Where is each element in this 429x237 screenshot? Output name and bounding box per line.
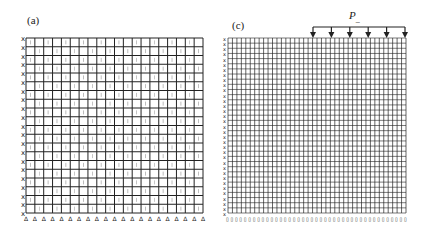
svg-text:▯: ▯ [288, 216, 291, 222]
svg-text:▯: ▯ [311, 216, 314, 222]
svg-text:Δ: Δ [166, 215, 171, 222]
svg-text:▯: ▯ [386, 216, 389, 222]
svg-text:▯: ▯ [279, 216, 282, 222]
svg-text:▯: ▯ [315, 216, 318, 222]
svg-text:Δ: Δ [183, 215, 188, 222]
svg-text:▯: ▯ [253, 216, 256, 222]
svg-text:Δ: Δ [148, 215, 153, 222]
svg-text:▯: ▯ [235, 216, 238, 222]
svg-text:x: x [21, 175, 25, 183]
svg-text:▯: ▯ [293, 216, 296, 222]
mesh-figure: xxxxxxxxxxxxxxxxxxxxxΔΔΔΔΔΔΔΔΔΔΔΔΔΔΔΔΔΔΔ… [0, 0, 429, 237]
svg-text:Δ: Δ [157, 215, 162, 222]
svg-text:Δ: Δ [33, 215, 38, 222]
svg-text:Δ: Δ [68, 215, 73, 222]
svg-text:x: x [21, 184, 25, 192]
svg-text:x: x [21, 44, 25, 52]
svg-text:▯: ▯ [306, 216, 309, 222]
svg-text:Δ: Δ [24, 215, 29, 222]
svg-text:▯: ▯ [373, 216, 376, 222]
svg-text:▯: ▯ [333, 216, 336, 222]
svg-text:▯: ▯ [244, 216, 247, 222]
svg-text:x: x [21, 131, 25, 139]
svg-text:▯: ▯ [266, 216, 269, 222]
svg-text:▯: ▯ [377, 216, 380, 222]
svg-text:Δ: Δ [95, 215, 100, 222]
svg-text:▯: ▯ [230, 216, 233, 222]
svg-text:x: x [21, 140, 25, 148]
svg-text:▯: ▯ [404, 216, 407, 222]
svg-text:▯: ▯ [368, 216, 371, 222]
svg-text:Δ: Δ [139, 215, 144, 222]
svg-text:x: x [21, 193, 25, 201]
svg-text:x: x [21, 61, 25, 69]
svg-text:▯: ▯ [262, 216, 265, 222]
svg-text:x: x [21, 35, 25, 43]
svg-text:▯: ▯ [257, 216, 260, 222]
svg-text:x: x [21, 79, 25, 87]
svg-text:x: x [21, 123, 25, 131]
svg-text:x: x [21, 149, 25, 157]
svg-text:x: x [21, 96, 25, 104]
svg-text:Δ: Δ [77, 215, 82, 222]
svg-text:x: x [21, 158, 25, 166]
svg-text:▯: ▯ [226, 216, 229, 222]
svg-text:x: x [21, 53, 25, 61]
svg-text:▯: ▯ [382, 216, 385, 222]
svg-text:x: x [21, 105, 25, 113]
svg-text:▯: ▯ [248, 216, 251, 222]
svg-text:▯: ▯ [324, 216, 327, 222]
svg-text:Δ: Δ [201, 215, 206, 222]
svg-text:▯: ▯ [239, 216, 242, 222]
svg-text:Δ: Δ [192, 215, 197, 222]
svg-text:▯: ▯ [302, 216, 305, 222]
svg-text:Δ: Δ [86, 215, 91, 222]
svg-text:▯: ▯ [364, 216, 367, 222]
svg-text:Δ: Δ [130, 215, 135, 222]
svg-text:Δ: Δ [42, 215, 47, 222]
svg-text:▯: ▯ [271, 216, 274, 222]
svg-text:▯: ▯ [284, 216, 287, 222]
svg-text:x: x [21, 114, 25, 122]
svg-text:▯: ▯ [391, 216, 394, 222]
svg-text:▯: ▯ [355, 216, 358, 222]
svg-text:Δ: Δ [113, 215, 118, 222]
svg-text:Δ: Δ [59, 215, 64, 222]
svg-text:Δ: Δ [51, 215, 56, 222]
svg-text:▯: ▯ [400, 216, 403, 222]
svg-text:▯: ▯ [360, 216, 363, 222]
svg-text:▯: ▯ [337, 216, 340, 222]
svg-text:Δ: Δ [104, 215, 109, 222]
svg-text:Δ: Δ [174, 215, 179, 222]
svg-text:x: x [21, 88, 25, 96]
svg-text:▯: ▯ [297, 216, 300, 222]
svg-text:▯: ▯ [342, 216, 345, 222]
svg-text:▯: ▯ [346, 216, 349, 222]
svg-text:▯: ▯ [275, 216, 278, 222]
svg-text:x: x [21, 166, 25, 174]
svg-text:Δ: Δ [121, 215, 126, 222]
svg-text:▯: ▯ [328, 216, 331, 222]
svg-text:▯: ▯ [319, 216, 322, 222]
svg-text:x: x [21, 201, 25, 209]
svg-text:x: x [21, 70, 25, 78]
svg-text:▯: ▯ [395, 216, 398, 222]
svg-text:▯: ▯ [351, 216, 354, 222]
